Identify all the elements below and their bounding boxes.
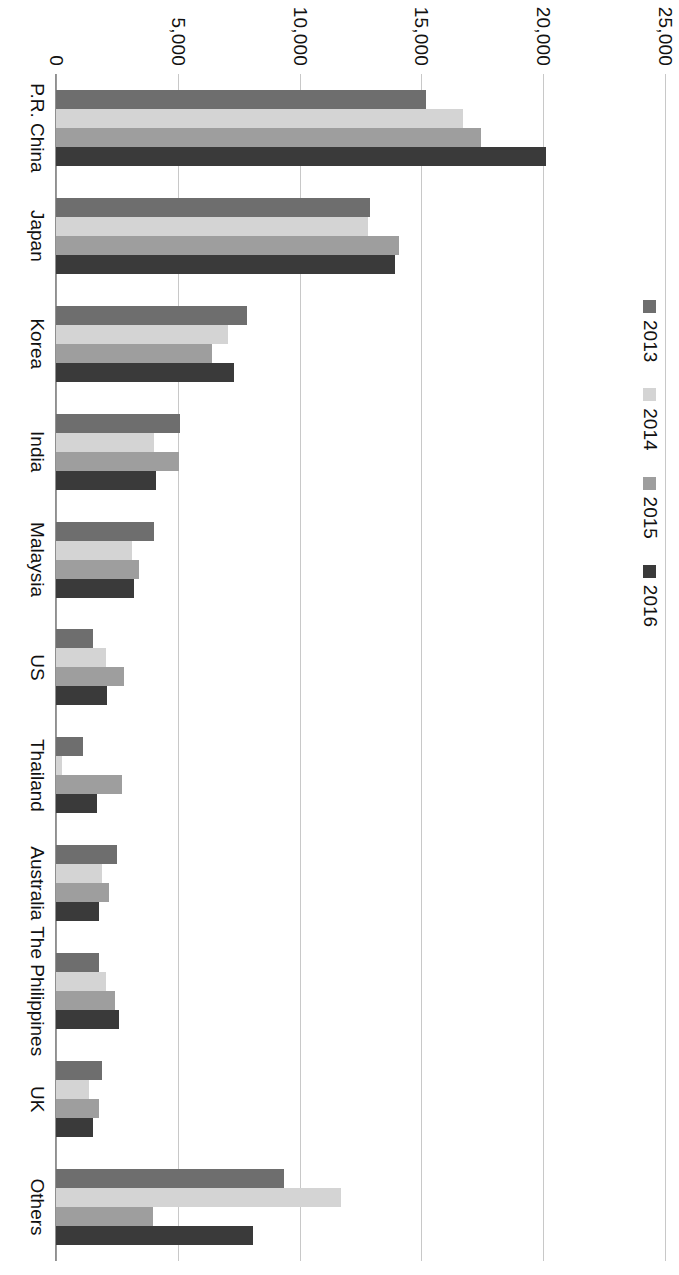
bar-group: [56, 937, 665, 1045]
bar[interactable]: [56, 1118, 93, 1137]
bar[interactable]: [56, 737, 83, 756]
legend-label: 2015: [639, 497, 661, 539]
bar[interactable]: [56, 1207, 153, 1226]
value-tick-label: 25,000: [654, 0, 676, 66]
legend-label: 2016: [639, 585, 661, 627]
category-label: Korea: [26, 318, 48, 369]
bar[interactable]: [56, 325, 228, 344]
bar[interactable]: [56, 1061, 102, 1080]
bar[interactable]: [56, 147, 546, 166]
bar[interactable]: [56, 433, 154, 452]
bar[interactable]: [56, 560, 139, 579]
bar[interactable]: [56, 648, 106, 667]
bar[interactable]: [56, 414, 180, 433]
bar-group: [56, 182, 665, 290]
category-label: Malaysia: [26, 522, 48, 597]
bar-chart: 05,00010,00015,00020,00025,000 P.R. Chin…: [0, 0, 679, 1275]
category-label: Thailand: [26, 739, 48, 812]
category-label: India: [26, 431, 48, 472]
legend-item[interactable]: 2015: [639, 477, 661, 539]
bar[interactable]: [56, 883, 109, 902]
bar[interactable]: [56, 344, 212, 363]
bar-groups: [56, 74, 665, 1261]
category-label: Japan: [26, 210, 48, 262]
bar[interactable]: [56, 864, 102, 883]
legend-swatch-icon: [644, 300, 657, 313]
gridline-25000: [665, 74, 666, 1261]
legend-swatch-icon: [644, 565, 657, 578]
legend-swatch-icon: [644, 388, 657, 401]
bar-group: [56, 614, 665, 722]
bar-group: [56, 1045, 665, 1153]
category-label: US: [26, 654, 48, 680]
bar[interactable]: [56, 198, 370, 217]
bar-group: [56, 398, 665, 506]
bar-group: [56, 290, 665, 398]
bar[interactable]: [56, 756, 62, 775]
value-tick-label: 20,000: [532, 0, 554, 66]
legend-swatch-icon: [644, 477, 657, 490]
bar[interactable]: [56, 775, 122, 794]
plot-area: [56, 74, 665, 1261]
value-tick-label: 10,000: [289, 0, 311, 66]
bar[interactable]: [56, 1010, 119, 1029]
bar[interactable]: [56, 306, 247, 325]
bar[interactable]: [56, 541, 132, 560]
bar[interactable]: [56, 991, 115, 1010]
bar[interactable]: [56, 1080, 89, 1099]
category-label: Australia: [26, 846, 48, 920]
category-label: P.R. China: [26, 83, 48, 172]
legend-item[interactable]: 2014: [639, 388, 661, 450]
rotated-chart-stage: 05,00010,00015,00020,00025,000 P.R. Chin…: [0, 0, 679, 1275]
value-tick-label: 15,000: [410, 0, 432, 66]
bar[interactable]: [56, 845, 117, 864]
category-label: Others: [26, 1179, 48, 1236]
bar[interactable]: [56, 236, 399, 255]
bar[interactable]: [56, 579, 134, 598]
bar[interactable]: [56, 522, 154, 541]
category-axis-line: [55, 74, 56, 1261]
bar-group: [56, 506, 665, 614]
bar[interactable]: [56, 471, 156, 490]
bar-group: [56, 74, 665, 182]
bar[interactable]: [56, 128, 481, 147]
bar[interactable]: [56, 667, 124, 686]
legend-item[interactable]: 2016: [639, 565, 661, 627]
bar-group: [56, 829, 665, 937]
bar[interactable]: [56, 1169, 284, 1188]
bar[interactable]: [56, 972, 106, 991]
legend: 2013201420152016: [639, 300, 661, 627]
legend-item[interactable]: 2013: [639, 300, 661, 362]
bar[interactable]: [56, 686, 107, 705]
legend-label: 2014: [639, 408, 661, 450]
legend-label: 2013: [639, 320, 661, 362]
bar-group: [56, 1153, 665, 1261]
bar[interactable]: [56, 452, 179, 471]
category-label: UK: [26, 1086, 48, 1112]
bar[interactable]: [56, 1099, 99, 1118]
bar[interactable]: [56, 90, 426, 109]
value-tick-label: 0: [45, 0, 67, 66]
bar[interactable]: [56, 1226, 253, 1245]
bar-group: [56, 721, 665, 829]
bar[interactable]: [56, 109, 463, 128]
bar[interactable]: [56, 363, 234, 382]
category-label: The Philippines: [26, 926, 48, 1056]
bar[interactable]: [56, 794, 97, 813]
bar[interactable]: [56, 629, 93, 648]
bar[interactable]: [56, 902, 99, 921]
bar[interactable]: [56, 217, 368, 236]
value-tick-label: 5,000: [167, 0, 189, 66]
bar[interactable]: [56, 953, 99, 972]
bar[interactable]: [56, 1188, 341, 1207]
bar[interactable]: [56, 255, 395, 274]
